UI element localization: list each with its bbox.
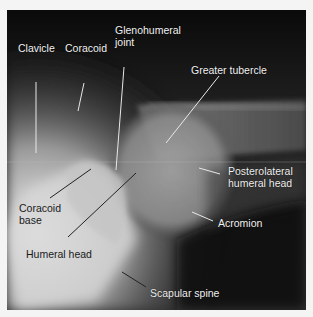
label-line: joint — [115, 36, 181, 48]
leader-coracoid — [78, 83, 84, 111]
label-scapular-spine: Scapular spine — [150, 287, 219, 299]
label-coracoid-base: Coracoid base — [19, 202, 61, 226]
label-line: base — [19, 214, 61, 226]
leader-scapular-spine — [122, 272, 146, 287]
label-line: Posterolateral — [228, 165, 293, 177]
label-clavicle: Clavicle — [18, 42, 55, 54]
label-glenohumeral-joint: Glenohumeral joint — [115, 24, 181, 48]
leader-coracoid-base — [50, 169, 91, 198]
leader-acromion — [192, 212, 213, 221]
leader-posterolateral — [199, 168, 220, 174]
label-posterolateral-humeral-head: Posterolateral humeral head — [228, 165, 293, 189]
leader-greater-tubercle — [166, 76, 219, 143]
label-humeral-head: Humeral head — [26, 248, 92, 260]
label-coracoid: Coracoid — [65, 42, 107, 54]
label-acromion: Acromion — [218, 217, 262, 229]
label-line: Glenohumeral — [115, 24, 181, 36]
label-greater-tubercle: Greater tubercle — [191, 64, 267, 76]
label-line: humeral head — [228, 177, 293, 189]
label-line: Coracoid — [19, 202, 61, 214]
leader-glenohumeral-joint — [116, 67, 124, 170]
radiograph-figure: Clavicle Coracoid Glenohumeral joint Gre… — [7, 10, 306, 310]
leader-humeral-head — [68, 173, 136, 237]
leader-lines — [7, 10, 306, 310]
